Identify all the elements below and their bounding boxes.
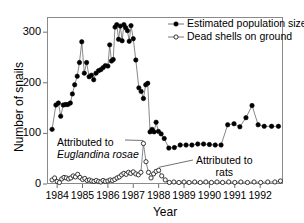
annotation-line-2: Euglandina rosae xyxy=(57,149,139,161)
annotation-euglandina-rosae: Attributed toEuglandina rosae xyxy=(57,137,139,160)
y-tick-label: 100 xyxy=(8,126,41,138)
annotation-rats: Attributed torats xyxy=(196,155,253,178)
y-tick-label: 200 xyxy=(8,76,41,88)
legend-item-label: Dead shells on ground xyxy=(187,30,292,42)
y-tick-label: 0 xyxy=(8,177,41,189)
annotation-line-1: Attributed to xyxy=(196,155,253,167)
y-tick-label: 300 xyxy=(8,25,41,37)
x-axis-title: Year xyxy=(0,205,304,219)
annotation-line-2: rats xyxy=(196,167,253,179)
x-tick-label: 1992 xyxy=(243,189,277,201)
snail-population-chart: Number of snails Year 0100200300 1984198… xyxy=(0,0,304,223)
legend-item-label: Estimated population size xyxy=(187,17,304,29)
